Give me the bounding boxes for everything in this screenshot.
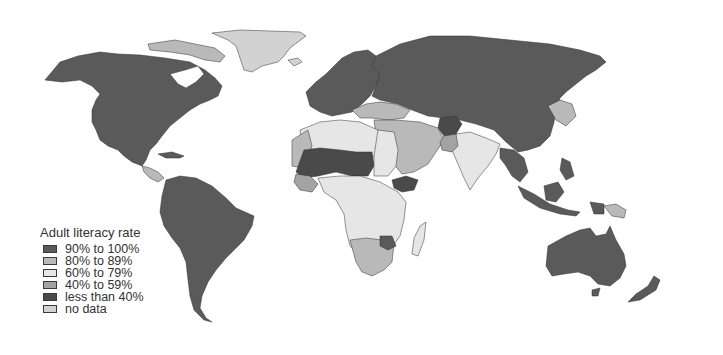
region-afghanistan: [438, 116, 462, 136]
region-central-america: [142, 166, 164, 182]
region-egypt-sudan: [374, 130, 398, 176]
region-greenland: [212, 30, 306, 72]
legend-label: no data: [65, 302, 107, 316]
region-new-zealand: [628, 276, 660, 302]
region-caribbean: [158, 152, 184, 158]
region-iceland: [288, 58, 302, 66]
legend-swatch: [43, 281, 57, 289]
legend-swatch: [43, 293, 57, 301]
region-borneo: [544, 182, 564, 202]
legend-item-no-data: no data: [40, 303, 144, 315]
legend-swatch: [43, 257, 57, 265]
region-south-asia: [452, 132, 500, 190]
region-south-america: [160, 176, 254, 322]
region-madagascar: [412, 222, 426, 256]
legend-title: Adult literacy rate: [40, 225, 144, 240]
legend: Adult literacy rate 90% to 100% 80% to 8…: [40, 225, 144, 315]
region-southeast-asia: [500, 148, 528, 182]
region-australia: [546, 226, 626, 286]
region-papua-new-guinea: [604, 204, 626, 218]
legend-swatch: [43, 305, 57, 313]
legend-swatch: [43, 245, 57, 253]
region-philippines: [560, 158, 574, 180]
legend-swatch: [43, 269, 57, 277]
region-tasmania: [592, 288, 600, 296]
region-sahel: [296, 148, 374, 178]
region-west-papua: [590, 202, 604, 214]
region-ethiopia: [392, 176, 418, 192]
